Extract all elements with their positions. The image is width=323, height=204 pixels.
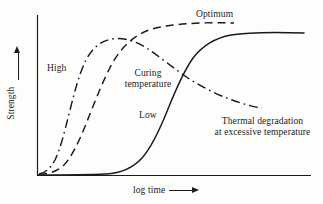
annotation-low: Low xyxy=(139,110,157,121)
x-axis-title: log time xyxy=(133,185,165,196)
chart-plot-area xyxy=(0,0,323,204)
annotation-thermal-degradation: Thermal degradation at excessive tempera… xyxy=(205,116,320,137)
y-axis-title-group: Strength xyxy=(2,46,18,156)
x-axis-arrow-icon xyxy=(169,187,199,194)
annotation-curing-line1: Curing xyxy=(113,68,183,79)
curing-strength-chart: Optimum High Curing temperature Low Ther… xyxy=(0,0,323,204)
annotation-thermal-line2: at excessive temperature xyxy=(205,127,320,138)
annotation-high: High xyxy=(47,63,66,74)
annotation-curing-line2: temperature xyxy=(113,79,183,90)
annotation-thermal-line1: Thermal degradation xyxy=(205,116,320,127)
annotation-optimum: Optimum xyxy=(196,9,233,20)
series-low-curve xyxy=(38,32,304,175)
x-axis-title-group: log time xyxy=(133,184,199,196)
y-axis-title: Strength xyxy=(6,60,17,146)
annotation-curing-temperature: Curing temperature xyxy=(113,68,183,89)
